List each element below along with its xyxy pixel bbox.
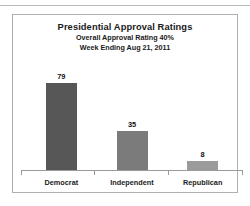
x-axis-label-independent: Independent: [97, 178, 168, 187]
bar-democrat[interactable]: [46, 83, 77, 170]
bar-republican[interactable]: [187, 161, 218, 170]
chart-subtitle-overall-rating: Overall Approval Rating 40%: [13, 33, 237, 43]
chart-subtitle-week-ending: Week Ending Aug 21, 2011: [13, 43, 237, 53]
bar-value-label: 79: [57, 72, 65, 81]
bar-group-republican: 8: [167, 60, 238, 170]
x-axis-tick: [168, 171, 169, 175]
bar-value-label: 8: [201, 150, 205, 159]
x-axis-category-labels: Democrat Independent Republican: [26, 178, 238, 187]
chart-page: Presidential Approval Ratings Overall Ap…: [0, 0, 250, 206]
page-top-divider: [0, 5, 250, 6]
x-axis-tick: [94, 171, 95, 175]
bar-value-label: 35: [128, 120, 136, 129]
plot-area: 79 35 8: [26, 60, 238, 170]
chart-title-block: Presidential Approval Ratings Overall Ap…: [13, 21, 237, 53]
chart-frame: Presidential Approval Ratings Overall Ap…: [12, 14, 238, 193]
bar-series: 79 35 8: [26, 60, 238, 170]
x-axis-tick: [242, 171, 243, 175]
x-axis-line: [21, 170, 243, 171]
chart-title: Presidential Approval Ratings: [13, 21, 237, 33]
x-axis-tick: [21, 171, 22, 175]
bar-group-independent: 35: [97, 60, 168, 170]
bar-independent[interactable]: [117, 131, 148, 170]
x-axis-label-republican: Republican: [167, 178, 238, 187]
x-axis-label-democrat: Democrat: [26, 178, 97, 187]
bar-group-democrat: 79: [26, 60, 97, 170]
